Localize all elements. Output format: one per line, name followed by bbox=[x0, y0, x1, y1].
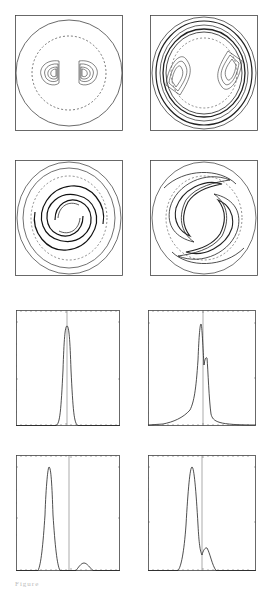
profile-plot-4 bbox=[148, 455, 256, 571]
profile-plot-1 bbox=[16, 310, 120, 426]
double-peak-plot bbox=[148, 310, 256, 426]
double-spiral-contour bbox=[15, 160, 123, 276]
vortex-pair-contour bbox=[15, 15, 123, 131]
contour-panel-4 bbox=[150, 160, 258, 276]
profile-plot-3 bbox=[16, 455, 120, 571]
broad-peak-shoulder-plot bbox=[148, 455, 256, 571]
figure-caption: Figure bbox=[15, 580, 39, 588]
contour-panel-2 bbox=[150, 15, 258, 131]
narrow-peak-plot bbox=[16, 310, 120, 426]
contour-panel-3 bbox=[15, 160, 123, 276]
shifted-peak-plot bbox=[16, 455, 120, 571]
crescent-filaments-contour bbox=[150, 160, 258, 276]
contour-panel-1 bbox=[15, 15, 123, 131]
stretched-vortex-contour bbox=[150, 15, 258, 131]
profile-plot-2 bbox=[148, 310, 256, 426]
